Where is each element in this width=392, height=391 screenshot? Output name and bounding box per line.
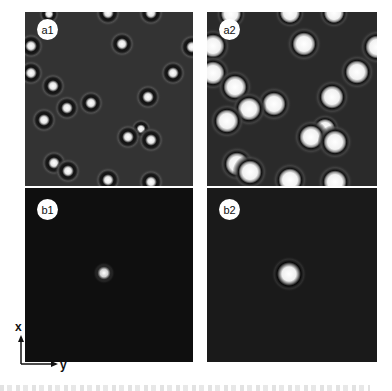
particle	[109, 31, 135, 57]
particle	[138, 127, 164, 153]
panel-b2-label: b2	[219, 199, 240, 220]
particle	[271, 256, 306, 291]
particle	[55, 158, 81, 184]
particle	[93, 262, 115, 284]
particle	[78, 90, 104, 116]
particle	[160, 60, 186, 86]
particle	[40, 73, 66, 99]
panel-a1-image: a1	[25, 12, 193, 186]
panel-a2-image: a2	[207, 12, 377, 186]
panel-a1-label: a1	[37, 19, 58, 40]
particle	[209, 103, 244, 138]
panel-b1-label: b1	[37, 199, 58, 220]
particle	[319, 12, 350, 28]
panel-b2-image: b2	[207, 188, 377, 362]
particle	[272, 162, 307, 186]
particle	[115, 124, 141, 150]
axis-arrows-icon	[0, 318, 80, 376]
particle	[138, 169, 164, 186]
particle	[95, 167, 121, 186]
panel-a2-label: a2	[219, 19, 240, 40]
particle	[275, 12, 306, 28]
figure-caption-clipped	[0, 383, 392, 391]
axis-y-label: y	[60, 358, 67, 372]
axis-indicator: x y	[0, 318, 80, 376]
particle	[179, 34, 193, 60]
particle	[138, 12, 164, 26]
particle	[314, 79, 349, 114]
particle	[135, 84, 161, 110]
particle	[95, 12, 121, 26]
particle	[286, 26, 321, 61]
particle	[54, 95, 80, 121]
caption-text-cutoff	[0, 385, 370, 391]
particle	[31, 107, 57, 133]
particle	[317, 124, 352, 159]
particle	[317, 164, 352, 186]
